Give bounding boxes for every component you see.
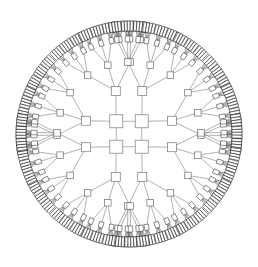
ring4-node <box>80 214 87 221</box>
ring4-node <box>144 224 149 231</box>
ring3-node <box>84 190 91 197</box>
leaf-node <box>232 132 242 135</box>
ring4-node <box>171 214 178 221</box>
node-layer-core <box>110 115 148 153</box>
ring4-node <box>139 225 144 232</box>
ring2-node <box>168 143 177 152</box>
core-node <box>135 115 148 128</box>
edge-layer-level-1 <box>86 91 172 177</box>
leaf-node <box>137 237 141 247</box>
ring4-node <box>220 141 226 146</box>
ring4-node <box>114 36 119 43</box>
core-node <box>110 115 123 128</box>
ring4-node <box>32 114 39 119</box>
ring4-node <box>144 37 149 44</box>
ring2-node <box>138 173 147 182</box>
ring2-node <box>81 116 90 125</box>
ring3-node <box>185 89 192 96</box>
ring4-node <box>128 226 133 232</box>
ring4-node <box>88 217 94 224</box>
ring4-node <box>171 47 178 54</box>
ring4-node <box>38 169 45 175</box>
edge-layer-level-3 <box>34 39 224 229</box>
ring4-node <box>221 130 227 135</box>
ring3-node <box>167 190 174 197</box>
edge-ring3-to-ring4 <box>170 193 174 217</box>
edge-ring3-to-ring4 <box>188 88 212 92</box>
node-layer-ring3 <box>54 59 204 209</box>
ring3-node <box>167 72 174 79</box>
ring3-node <box>57 152 64 159</box>
ring3-node <box>67 89 74 96</box>
core-node <box>135 140 148 153</box>
ring4-node <box>154 221 160 228</box>
ring3-node <box>54 130 61 137</box>
ring3-node <box>147 62 154 69</box>
ring4-node <box>209 85 216 92</box>
node-layer-ring2 <box>81 86 176 181</box>
core-node <box>110 140 123 153</box>
ring4-node <box>32 149 39 154</box>
ring3-node <box>185 172 192 179</box>
ring3-node <box>67 172 74 179</box>
ring3-node <box>147 200 154 207</box>
edge-ring3-to-ring4 <box>83 193 87 217</box>
leaf-node <box>128 237 131 247</box>
edge-ring3-to-ring4 <box>83 51 87 75</box>
leaf-node <box>232 135 242 138</box>
ring4-node <box>31 130 37 135</box>
ring4-node <box>219 149 226 154</box>
ring4-node <box>117 225 122 231</box>
ring4-node <box>109 37 114 44</box>
leaf-node <box>232 123 242 127</box>
leaf-node <box>16 135 26 138</box>
ring4-node <box>35 159 42 165</box>
ring4-node <box>38 93 45 99</box>
ring3-node <box>125 59 131 65</box>
ring4-node <box>212 169 219 175</box>
radial-tree-graph <box>0 0 258 267</box>
ring3-node <box>195 110 202 117</box>
ring4-node <box>125 36 130 42</box>
edge-ring3-to-ring4 <box>170 51 174 75</box>
ring3-node <box>84 72 91 79</box>
leaf-node <box>16 132 26 135</box>
leaf-node <box>16 126 26 129</box>
ring4-node <box>98 221 104 228</box>
ring4-node <box>35 103 42 109</box>
ring4-node <box>164 217 170 224</box>
edge-ring3-to-ring4 <box>188 175 212 179</box>
edge-ring3-to-ring4 <box>46 88 70 92</box>
ring4-node <box>154 40 160 47</box>
leaf-node <box>232 129 242 132</box>
ring4-node <box>80 47 87 54</box>
ring4-node <box>31 119 38 124</box>
ring2-node <box>111 86 120 95</box>
leaf-node <box>124 21 127 31</box>
leaf-node <box>130 21 133 31</box>
leaf-node <box>125 237 128 247</box>
ring4-node <box>109 224 114 231</box>
ring3-node <box>127 203 134 210</box>
edge-layer-level-2 <box>57 62 201 206</box>
ring3-node <box>57 110 64 117</box>
leaf-node <box>118 21 122 31</box>
ring4-node <box>209 176 216 183</box>
ring2-node <box>111 173 120 182</box>
edge-ring3-to-ring4 <box>46 175 70 179</box>
edge-layer-level-4 <box>21 26 237 242</box>
ring4-node <box>216 103 223 109</box>
ring3-node <box>198 130 205 137</box>
ring2-node <box>168 116 177 125</box>
ring3-node <box>195 152 202 159</box>
figure-root <box>0 0 258 267</box>
ring4-node <box>216 159 223 165</box>
ring4-node <box>220 119 227 124</box>
ring4-node <box>31 141 37 146</box>
leaf-node <box>127 21 130 31</box>
ring4-node <box>164 43 170 50</box>
ring4-node <box>42 85 49 92</box>
ring4-node <box>212 93 219 99</box>
ring4-node <box>42 176 49 183</box>
ring4-node <box>136 36 141 42</box>
